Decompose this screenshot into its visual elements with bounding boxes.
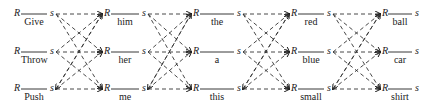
node-start-R: R [193, 46, 199, 56]
word-label: small [298, 92, 324, 102]
node-end-s: s [415, 83, 419, 93]
node-end-s: s [327, 83, 331, 93]
node-start-R: R [291, 46, 297, 56]
node-start-R: R [104, 8, 110, 18]
node-end-s: s [327, 8, 331, 18]
node-end-s: s [237, 83, 241, 93]
node-start-R: R [14, 46, 20, 56]
word-label: this [200, 92, 234, 102]
node-start-R: R [14, 83, 20, 93]
node-end-s: s [50, 46, 54, 56]
word-label: me [111, 92, 139, 102]
node-start-R: R [193, 8, 199, 18]
node-end-s: s [142, 8, 146, 18]
node-end-s: s [142, 46, 146, 56]
node-end-s: s [50, 8, 54, 18]
word-label: shirt [388, 92, 412, 102]
word-label: Give [21, 17, 47, 27]
word-label: Throw [21, 55, 47, 65]
node-end-s: s [327, 46, 331, 56]
word-label: car [388, 55, 412, 65]
node-end-s: s [415, 8, 419, 18]
node-start-R: R [291, 83, 297, 93]
word-label: her [111, 55, 139, 65]
node-start-R: R [104, 83, 110, 93]
node-end-s: s [142, 83, 146, 93]
word-label: the [200, 17, 234, 27]
node-start-R: R [193, 83, 199, 93]
node-start-R: R [14, 8, 20, 18]
word-label: him [111, 17, 139, 27]
node-end-s: s [237, 46, 241, 56]
word-label: a [200, 55, 234, 65]
node-start-R: R [291, 8, 297, 18]
node-end-s: s [415, 46, 419, 56]
node-end-s: s [50, 83, 54, 93]
word-label: ball [388, 17, 412, 27]
word-label: red [298, 17, 324, 27]
word-label: blue [298, 55, 324, 65]
node-end-s: s [237, 8, 241, 18]
node-start-R: R [104, 46, 110, 56]
word-label: Push [21, 92, 47, 102]
